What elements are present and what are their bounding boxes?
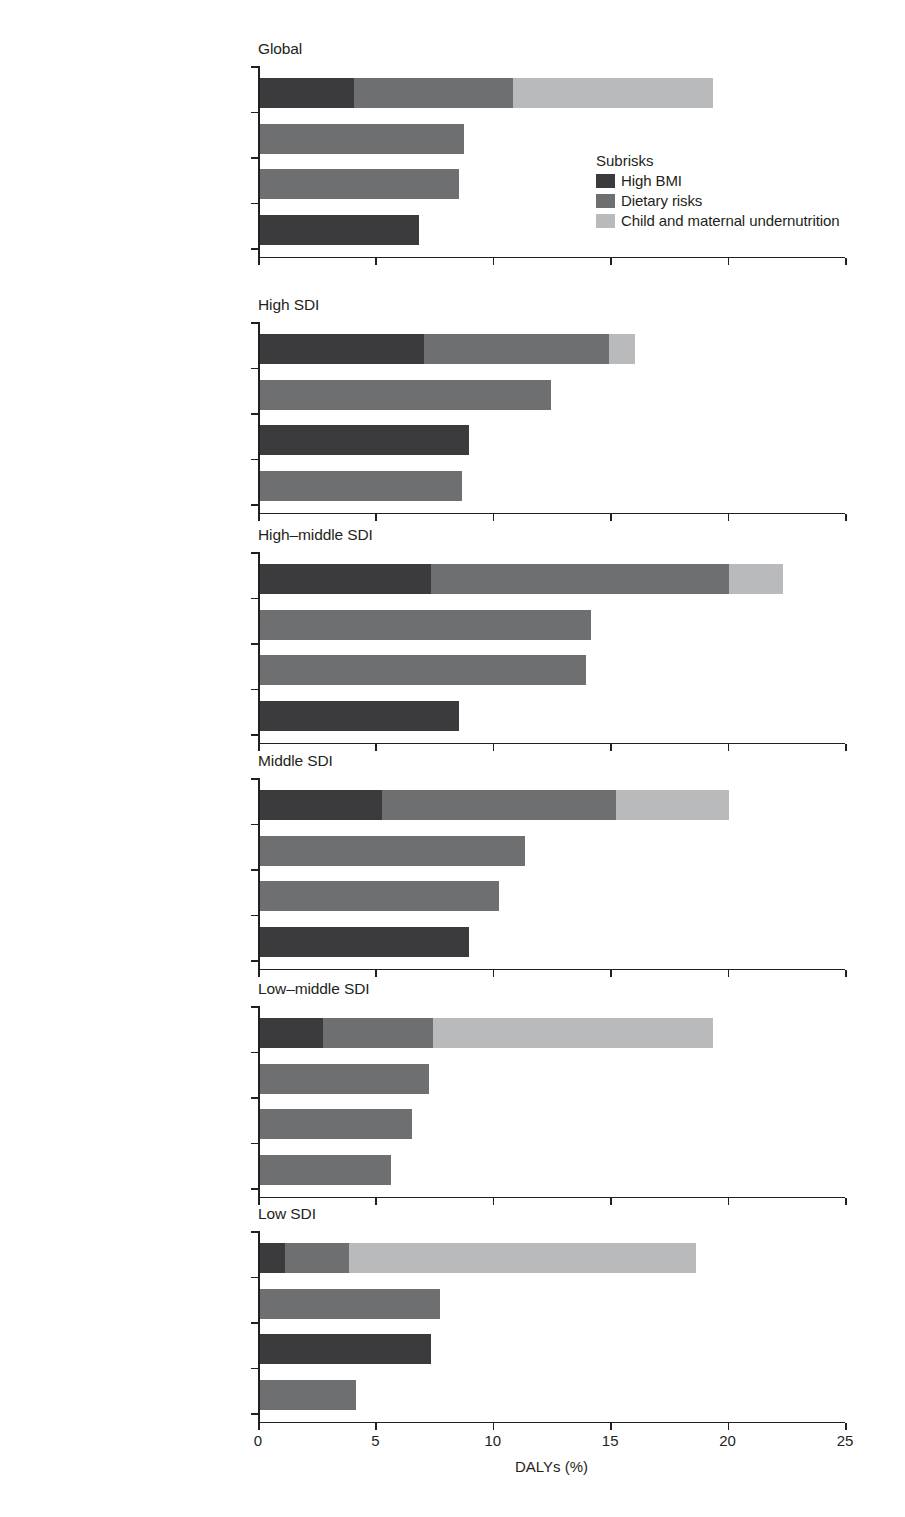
bar — [260, 1018, 713, 1048]
bar — [260, 380, 551, 410]
x-axis-tick — [610, 970, 612, 977]
bar-segment-bmi — [260, 425, 469, 455]
plot-area — [258, 1006, 845, 1197]
bar — [260, 425, 469, 455]
bar — [260, 701, 460, 731]
y-axis-tick — [251, 734, 258, 736]
x-axis — [258, 1422, 845, 1424]
bar — [260, 78, 713, 108]
x-axis-tick — [728, 514, 730, 521]
y-axis-tick — [251, 869, 258, 871]
x-axis-tick — [258, 258, 260, 265]
x-axis-tick — [375, 1198, 377, 1205]
y-axis-tick — [251, 157, 258, 159]
x-axis-tick — [493, 258, 495, 265]
bar-segment-bmi — [260, 1243, 286, 1273]
bar-segment-diet — [382, 790, 617, 820]
y-axis-tick — [251, 112, 258, 114]
bar-segment-diet — [323, 1018, 433, 1048]
legend-item-dietary-risks: Dietary risks — [596, 191, 840, 210]
y-axis-tick — [251, 504, 258, 506]
x-axis-tick — [258, 744, 260, 751]
legend-label-high-bmi: High BMI — [621, 172, 682, 189]
x-axis-tick-label: 5 — [371, 1432, 379, 1449]
bar — [260, 927, 469, 957]
x-axis-tick — [375, 1423, 377, 1430]
bar-segment-diet — [260, 380, 551, 410]
y-axis-tick — [251, 66, 258, 68]
bar — [260, 124, 464, 154]
x-axis-tick — [845, 258, 847, 265]
y-axis-tick — [251, 1188, 258, 1190]
x-axis-tick — [610, 514, 612, 521]
x-axis-tick-label: 10 — [484, 1432, 501, 1449]
x-axis-tick — [375, 744, 377, 751]
y-axis-tick — [251, 1413, 258, 1415]
x-axis-tick — [728, 744, 730, 751]
y-axis-tick — [251, 689, 258, 691]
panel-title: Low–middle SDI — [258, 980, 369, 998]
y-axis-tick — [251, 915, 258, 917]
x-axis-tick — [258, 1198, 260, 1205]
bar-segment-bmi — [260, 215, 420, 245]
y-axis-tick — [251, 203, 258, 205]
legend: Subrisks High BMI Dietary risks Child an… — [596, 152, 840, 231]
x-axis-tick — [845, 514, 847, 521]
x-axis-tick — [258, 1423, 260, 1430]
bar — [260, 836, 525, 866]
y-axis-tick — [251, 1231, 258, 1233]
y-axis-tick — [251, 413, 258, 415]
bar-segment-diet — [260, 169, 460, 199]
legend-label-dietary-risks: Dietary risks — [621, 192, 702, 209]
x-axis — [258, 743, 845, 745]
x-axis — [258, 257, 845, 259]
x-axis-tick — [728, 970, 730, 977]
y-axis-tick — [251, 1006, 258, 1008]
bar — [260, 1109, 413, 1139]
panel-title: High–middle SDI — [258, 526, 373, 544]
bar-segment-bmi — [260, 790, 382, 820]
bar-segment-diet — [285, 1243, 348, 1273]
y-axis-tick — [251, 322, 258, 324]
bar-segment-cmu — [729, 564, 783, 594]
x-axis-tick — [610, 1198, 612, 1205]
bar-segment-bmi — [260, 564, 431, 594]
x-axis-tick — [493, 970, 495, 977]
x-axis-tick — [493, 1423, 495, 1430]
bar-segment-bmi — [260, 1018, 323, 1048]
legend-label-child-maternal-undernutrition: Child and maternal undernutrition — [621, 212, 840, 229]
x-axis-tick — [728, 1198, 730, 1205]
y-axis-tick — [251, 552, 258, 554]
bar-segment-bmi — [260, 1334, 431, 1364]
x-axis-tick-label: 25 — [837, 1432, 854, 1449]
panel-title: High SDI — [258, 296, 319, 314]
plot-area — [258, 778, 845, 969]
bar-segment-diet — [260, 1289, 441, 1319]
y-axis-tick — [251, 778, 258, 780]
x-axis-tick — [258, 514, 260, 521]
x-axis-tick — [610, 1423, 612, 1430]
figure-stacked-bar-dalys: GlobalMalnutrition in all its formsHigh … — [0, 0, 905, 1517]
x-axis — [258, 969, 845, 971]
x-axis-tick-label: 20 — [719, 1432, 736, 1449]
bar-segment-diet — [354, 78, 514, 108]
bar — [260, 1064, 429, 1094]
bar-segment-diet — [260, 1155, 391, 1185]
x-axis-tick — [728, 258, 730, 265]
bar-segment-bmi — [260, 334, 424, 364]
plot-area: 0510152025 — [258, 1231, 845, 1422]
bar — [260, 1243, 697, 1273]
x-axis-tick — [845, 744, 847, 751]
x-axis-tick — [493, 514, 495, 521]
bar-segment-diet — [424, 334, 609, 364]
y-axis-tick — [251, 1322, 258, 1324]
bar — [260, 471, 462, 501]
legend-item-child-maternal-undernutrition: Child and maternal undernutrition — [596, 211, 840, 230]
x-axis-tick — [610, 744, 612, 751]
x-axis — [258, 513, 845, 515]
bar-segment-cmu — [616, 790, 729, 820]
bar-segment-diet — [260, 1380, 356, 1410]
x-axis-tick — [493, 744, 495, 751]
y-axis-tick — [251, 1277, 258, 1279]
bar — [260, 215, 420, 245]
